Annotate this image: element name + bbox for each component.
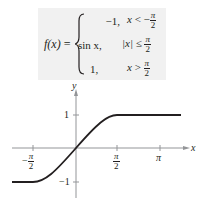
y-tick-1: 1 (64, 109, 69, 120)
x-tick-neg-pi-half: −π2 (22, 152, 34, 171)
y-tick-neg1: −1 (59, 176, 70, 187)
y-axis-label: y (72, 80, 76, 91)
x-tick-pi: π (156, 152, 161, 163)
x-axis-label: x (191, 142, 195, 153)
graph (0, 0, 203, 209)
x-tick-pi-half: π2 (113, 152, 120, 171)
x-axis-arrow-icon (183, 146, 190, 150)
